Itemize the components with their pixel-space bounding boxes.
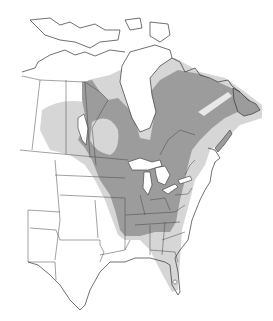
- arctic-islands: [30, 18, 120, 48]
- arctic-island-2: [150, 22, 170, 42]
- north-america-map-svg: [0, 0, 273, 321]
- arctic-island-3: [125, 18, 142, 30]
- florida-lake-okeechobee: [173, 280, 177, 284]
